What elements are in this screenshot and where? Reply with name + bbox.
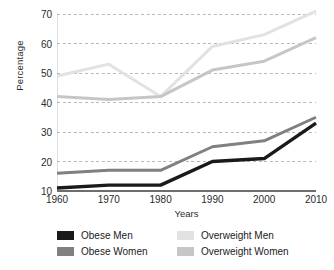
y-axis-tick-label: 40 — [28, 97, 52, 108]
x-axis-tick-label: 1980 — [141, 194, 181, 205]
legend-swatch-icon — [177, 247, 194, 256]
x-axis-tick-label: 1960 — [37, 194, 77, 205]
y-axis-tick-label: 30 — [28, 127, 52, 138]
legend-item-label: Obese Women — [81, 246, 148, 257]
y-axis-tick-label: 50 — [28, 68, 52, 79]
chart-canvas — [57, 14, 316, 191]
x-axis-title: Years — [57, 208, 316, 219]
series-line — [57, 117, 316, 173]
legend-item-label: Overweight Women — [201, 246, 289, 257]
legend-item[interactable]: Overweight Men — [177, 227, 319, 243]
y-axis-tick-labels: 70605040302010 — [26, 14, 52, 191]
x-axis-tick-label: 2010 — [296, 194, 334, 205]
legend-swatch-icon — [177, 231, 194, 240]
legend-item[interactable]: Obese Women — [57, 243, 177, 259]
x-axis-tick-label: 1990 — [192, 194, 232, 205]
y-axis-tick-label: 60 — [28, 38, 52, 49]
line-chart: Percentage 70605040302010 19601970198019… — [0, 0, 334, 270]
series-line — [57, 123, 316, 188]
x-axis-tick-labels: 196019701980199020002010 — [57, 194, 316, 208]
gridlines — [57, 14, 316, 162]
y-axis-tick-label: 20 — [28, 156, 52, 167]
legend-swatch-icon — [57, 247, 74, 256]
x-axis-tick-label: 1970 — [89, 194, 129, 205]
legend-item-label: Obese Men — [81, 230, 133, 241]
legend-item[interactable]: Overweight Women — [177, 243, 319, 259]
chart-legend: Obese MenOverweight MenObese WomenOverwe… — [57, 227, 319, 259]
x-axis-tick-label: 2000 — [244, 194, 284, 205]
legend-item-label: Overweight Men — [201, 230, 274, 241]
legend-item[interactable]: Obese Men — [57, 227, 177, 243]
y-axis-tick-label: 70 — [28, 9, 52, 20]
legend-swatch-icon — [57, 231, 74, 240]
y-axis-title: Percentage — [14, 21, 25, 111]
plot-area — [57, 14, 316, 191]
